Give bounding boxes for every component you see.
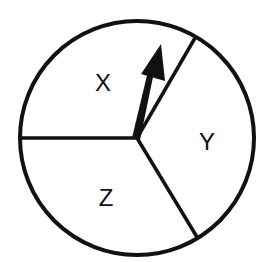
spinner-diagram: X Y Z bbox=[0, 0, 268, 262]
section-label-z: Z bbox=[99, 184, 114, 211]
section-label-y: Y bbox=[199, 128, 215, 155]
section-label-x: X bbox=[95, 69, 111, 96]
